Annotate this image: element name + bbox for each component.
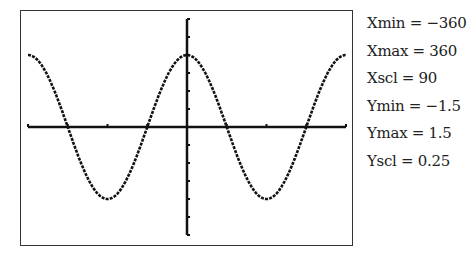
- equals-sign: =: [405, 14, 426, 32]
- setting-name: Ymin: [367, 97, 404, 115]
- setting-xmin: Xmin = −360: [367, 10, 475, 38]
- setting-ymax: Ymax = 1.5: [367, 120, 475, 148]
- setting-ymin: Ymin = −1.5: [367, 93, 475, 121]
- setting-yscl: Yscl = 0.25: [367, 148, 475, 176]
- setting-name: Xmin: [367, 14, 405, 32]
- equals-sign: =: [404, 97, 425, 115]
- setting-name: Ymax: [367, 124, 407, 142]
- setting-value: 90: [419, 69, 438, 87]
- setting-value: 360: [429, 42, 457, 60]
- setting-value: −1.5: [426, 97, 461, 115]
- equals-sign: =: [397, 69, 418, 87]
- setting-name: Yscl: [367, 152, 397, 170]
- setting-xscl: Xscl = 90: [367, 65, 475, 93]
- equals-sign: =: [407, 124, 428, 142]
- setting-xmax: Xmax = 360: [367, 38, 475, 66]
- plot-area: [21, 11, 354, 247]
- setting-value: 1.5: [429, 124, 452, 142]
- setting-value: 0.25: [418, 152, 450, 170]
- graph-screen: [20, 10, 353, 246]
- equals-sign: =: [397, 152, 418, 170]
- window-settings-list: Xmin = −360 Xmax = 360 Xscl = 90 Ymin = …: [367, 10, 475, 175]
- setting-name: Xmax: [367, 42, 408, 60]
- setting-value: −360: [426, 14, 466, 32]
- setting-name: Xscl: [367, 69, 397, 87]
- equals-sign: =: [408, 42, 429, 60]
